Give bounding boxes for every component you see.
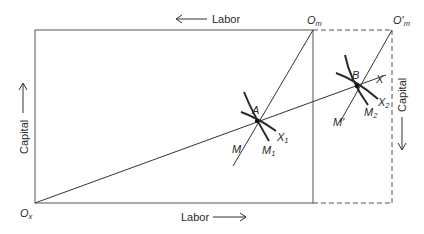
isoquant-m1-label: M1 xyxy=(262,144,275,158)
point-a-label: A xyxy=(251,104,259,116)
bottom-labor-label: Labor xyxy=(181,211,209,223)
bottom-labor-axis-label: Labor xyxy=(181,211,246,223)
left-capital-axis-label: Capital xyxy=(18,83,30,154)
expanded-box-extension xyxy=(313,30,392,203)
isoquant-x1-label: X1 xyxy=(276,131,289,145)
point-b-label: B xyxy=(352,69,359,81)
point-a-dot xyxy=(255,119,259,123)
ray-m-prime-label: M′ xyxy=(333,116,345,128)
top-labor-label: Labor xyxy=(212,13,240,25)
origin-om-prime-label: O′m xyxy=(393,14,410,28)
ray-x-label: X xyxy=(375,73,384,85)
right-capital-axis-label: Capital xyxy=(396,78,408,150)
ray-x xyxy=(35,75,386,203)
right-capital-label: Capital xyxy=(396,78,408,112)
ray-m-label: M xyxy=(232,143,242,155)
isoquant-m2-label: M2 xyxy=(364,106,378,120)
isoquant-x2-label: X2 xyxy=(377,96,390,110)
left-capital-label: Capital xyxy=(18,120,30,154)
point-b-dot xyxy=(355,84,359,88)
edgeworth-box-diagram: Labor Labor Capital Capital Ox Om O′m A … xyxy=(0,0,424,234)
top-labor-axis-label: Labor xyxy=(176,13,240,25)
ray-m xyxy=(233,30,313,166)
origin-ox-label: Ox xyxy=(20,207,33,221)
origin-om-label: Om xyxy=(307,14,322,28)
isoquant-m1 xyxy=(244,92,269,141)
